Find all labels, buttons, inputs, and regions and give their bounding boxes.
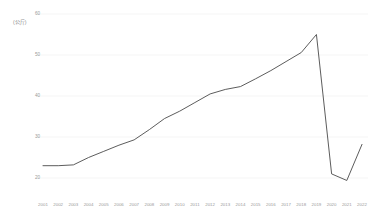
x-tick-label: 2016 <box>266 203 276 207</box>
x-tick-label: 2021 <box>342 203 352 207</box>
x-tick-label: 2003 <box>68 203 78 207</box>
x-tick-label: 2010 <box>175 203 185 207</box>
line-chart: (公斤) 2030405060 200120022003200420052006… <box>0 0 373 221</box>
x-tick-label: 2015 <box>251 203 261 207</box>
x-tick-label: 2004 <box>84 203 94 207</box>
x-tick-label: 2018 <box>296 203 306 207</box>
x-tick-label: 2007 <box>129 203 139 207</box>
x-tick-label: 2002 <box>53 203 63 207</box>
x-tick-label: 2005 <box>99 203 109 207</box>
x-tick-label: 2011 <box>190 203 199 207</box>
x-tick-label: 2019 <box>312 203 322 207</box>
x-tick-label: 2022 <box>357 203 367 207</box>
x-tick-label: 2001 <box>38 203 48 207</box>
x-axis: 2001200220032004200520062007200820092010… <box>0 0 373 221</box>
x-tick-label: 2014 <box>236 203 246 207</box>
x-tick-label: 2006 <box>114 203 124 207</box>
x-tick-label: 2009 <box>160 203 170 207</box>
x-tick-label: 2013 <box>220 203 230 207</box>
x-tick-label: 2008 <box>144 203 154 207</box>
x-tick-label: 2017 <box>281 203 291 207</box>
x-tick-label: 2012 <box>205 203 215 207</box>
x-tick-label: 2020 <box>327 203 337 207</box>
